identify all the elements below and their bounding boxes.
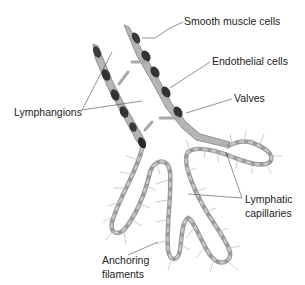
label-endothelial-cells: Endothelial cells	[212, 55, 288, 68]
leader-valves	[186, 99, 232, 113]
right-collecting-vessel	[124, 25, 230, 147]
label-lymphangions: Lymphangions	[14, 106, 82, 119]
lymphatic-diagram	[0, 0, 305, 285]
label-valves: Valves	[234, 92, 265, 105]
leader-endothelial	[170, 62, 210, 88]
label-anchoring-filaments-line2: filaments	[102, 268, 144, 281]
label-lymphatic-capillaries-line2: capillaries	[245, 207, 292, 220]
label-smooth-muscle-cells: Smooth muscle cells	[184, 15, 280, 28]
leader-smooth-muscle	[142, 22, 183, 38]
label-anchoring-filaments-line1: Anchoring	[102, 254, 149, 267]
leader-lymphangion-2	[82, 101, 142, 110]
label-lymphatic-capillaries-line1: Lymphatic	[245, 193, 292, 206]
